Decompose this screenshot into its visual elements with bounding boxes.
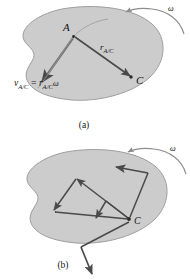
point-c-label-b: C — [134, 215, 141, 226]
point-a-label: A — [62, 21, 70, 33]
radius-label-sub: A/C — [103, 47, 115, 54]
velocity-vector-b-5 — [81, 247, 92, 274]
caption-a: (a) — [79, 120, 90, 131]
rigid-body-shape-b — [27, 150, 167, 244]
omega-label-a: ω — [168, 4, 174, 13]
physics-figure: ω A C rA/C vA/C=rA/Cω — [0, 0, 190, 280]
velocity-label-v-sub: A/C — [17, 83, 29, 90]
point-c-label-a: C — [136, 74, 144, 86]
panel-b: ω C (b) — [27, 144, 186, 274]
point-a-marker — [72, 35, 75, 38]
velocity-label-r-sub: A/C — [42, 83, 54, 90]
velocity-label-omega: ω — [53, 79, 59, 88]
point-c-marker-b — [127, 217, 131, 221]
panel-a: ω A C rA/C vA/C=rA/Cω — [14, 4, 184, 131]
point-c-marker-a — [129, 75, 132, 78]
omega-label-b: ω — [170, 144, 176, 153]
caption-b: (b) — [57, 260, 68, 271]
figure-root: ω A C rA/C vA/C=rA/Cω — [0, 0, 190, 280]
velocity-label-equals: = — [30, 78, 36, 88]
